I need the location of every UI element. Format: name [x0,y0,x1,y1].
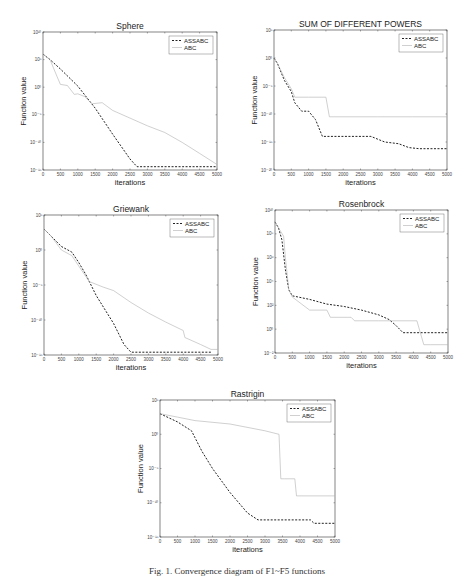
chart-rastrigin: Rastrigin0500100015002000250030003500400… [136,389,341,554]
x-tick-label: 1500 [322,355,333,360]
legend: ASSABCABC [400,214,444,232]
x-tick-label: 4500 [196,357,207,362]
legend-label-abc: ABC [302,413,315,419]
x-tick-label: 3000 [260,539,271,544]
x-tick-label: 0 [42,172,45,177]
y-axis-label: Function value [20,261,29,310]
x-tick-label: 4000 [295,539,306,544]
x-tick-label: 1500 [321,172,332,177]
x-tick-label: 500 [57,172,65,177]
x-tick-label: 4000 [408,355,419,360]
legend-label-assabc: ASSABC [302,406,327,412]
legend-label-assabc: ASSABC [415,216,440,222]
x-tick-label: 5000 [443,355,454,360]
x-tick-label: 3000 [143,357,154,362]
x-tick-label: 3000 [142,172,153,177]
legend-label-abc: ABC [184,45,197,51]
x-tick-label: 500 [289,355,297,360]
chart-rosenbrock: Rosenbrock050010001500200025003000350040… [251,199,454,370]
y-axis-label: Function value [250,76,259,125]
y-tick-label: 10⁵ [152,398,159,403]
y-tick-label: 10⁻¹⁵ [30,168,42,173]
chart-griewank: Griewank05001000150020002500300035004000… [20,204,224,372]
y-tick-label: 10⁻¹⁰ [261,112,273,117]
x-tick-label: 4500 [195,172,206,177]
legend: ASSABCABC [170,219,214,237]
chart-title: SUM OF DIFFERENT POWERS [299,19,422,29]
legend-label-abc: ABC [415,223,428,229]
x-tick-label: 5000 [330,539,341,544]
y-tick-label: 10⁰ [34,85,41,90]
y-tick-label: 10⁻¹⁵ [31,353,43,358]
y-tick-label: 10¹⁰ [265,208,274,213]
chart-sphere: Sphere0500100015002000250030003500400045… [19,21,223,187]
x-tick-label: 4000 [178,357,189,362]
x-tick-label: 4000 [407,172,418,177]
x-tick-label: 2500 [126,357,137,362]
y-tick-label: 10⁻¹⁵ [147,535,159,540]
figure-caption: Fig. 1. Convergence diagram of F1~F5 fun… [0,566,474,576]
x-tick-label: 4000 [177,172,188,177]
legend-label-assabc: ASSABC [184,38,209,44]
x-tick-label: 1000 [190,539,201,544]
x-tick-label: 4500 [312,539,323,544]
y-tick-label: 10⁵ [266,28,273,33]
y-axis-label: Function value [19,77,28,126]
x-tick-label: 0 [159,539,162,544]
x-tick-label: 1500 [207,539,218,544]
x-tick-label: 500 [288,172,296,177]
x-tick-label: 2500 [355,172,366,177]
y-tick-label: 10⁶ [267,255,274,260]
y-tick-label: 10⁰ [266,327,273,332]
y-tick-label: 10⁻¹⁰ [30,140,42,145]
x-tick-label: 1000 [305,355,316,360]
x-tick-label: 1500 [91,357,102,362]
x-tick-label: 4500 [425,172,436,177]
x-axis-label: iterations [115,178,146,187]
x-tick-label: 0 [274,355,277,360]
y-tick-label: 10⁵ [36,213,43,218]
chart-title: Rosenbrock [339,199,385,209]
x-tick-label: 1000 [73,172,84,177]
x-tick-label: 2000 [225,539,236,544]
y-tick-label: 10¹⁰ [33,30,42,35]
legend: ASSABCABC [399,34,443,52]
y-tick-label: 10⁸ [267,231,274,236]
y-tick-label: 10⁵ [35,57,42,62]
x-tick-label: 3500 [391,355,402,360]
y-tick-label: 10⁻¹⁵ [261,140,273,145]
x-tick-label: 5000 [213,357,224,362]
x-tick-label: 4500 [426,355,437,360]
y-tick-label: 10⁴ [267,279,274,284]
x-tick-label: 2000 [109,357,120,362]
x-tick-label: 3000 [373,172,384,177]
x-axis-label: iterations [232,545,263,554]
y-tick-label: 10⁻⁵ [263,84,273,89]
x-tick-label: 500 [174,539,182,544]
y-tick-label: 10⁰ [35,248,42,253]
chart-title: Rastrigin [231,389,265,399]
x-tick-label: 5000 [212,172,223,177]
y-tick-label: 10² [267,303,274,308]
x-tick-label: 3500 [277,539,288,544]
x-tick-label: 2500 [356,355,367,360]
y-axis-label: Function value [251,257,260,306]
y-tick-label: 10⁻¹⁰ [147,500,159,505]
legend: ASSABCABC [169,36,213,54]
chart-sum-of-different-powers: SUM OF DIFFERENT POWERS05001000150020002… [250,19,453,187]
legend-label-assabc: ASSABC [185,221,210,227]
y-tick-label: 10⁻⁵ [33,283,43,288]
legend-label-abc: ABC [185,228,198,234]
y-tick-label: 10⁻²⁰ [261,168,273,173]
y-axis-label: Function value [136,444,145,493]
y-tick-label: 10⁻⁵ [149,466,159,471]
x-tick-label: 0 [273,172,276,177]
x-tick-label: 1000 [304,172,315,177]
x-axis-label: iterations [116,363,147,372]
y-tick-label: 10⁻⁵ [32,112,42,117]
x-tick-label: 2500 [242,539,253,544]
x-tick-label: 3500 [160,172,171,177]
x-tick-label: 1000 [74,357,85,362]
x-tick-label: 0 [43,357,46,362]
